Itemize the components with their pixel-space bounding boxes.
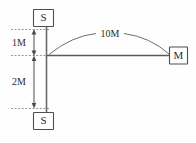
dimension-arrowhead-2m-up — [32, 56, 37, 61]
mass-label: M — [174, 49, 184, 61]
upper-segment-label: 1M — [12, 37, 26, 48]
lower-segment-label: 2M — [12, 76, 26, 87]
diagram-canvas: 10M 1M 2M S S M — [0, 0, 196, 143]
bottom-support-label: S — [40, 114, 46, 126]
span-arc-right — [124, 34, 169, 55]
dimension-arrowhead-2m-down — [32, 103, 37, 108]
top-support-label: S — [40, 11, 46, 23]
dimension-arrowhead-1m-up — [32, 29, 37, 34]
dimension-arrowhead-1m-down — [32, 51, 37, 56]
span-arc-left — [49, 34, 96, 55]
beam-span-label: 10M — [101, 28, 120, 39]
mechanics-diagram: 10M 1M 2M S S M — [0, 0, 196, 143]
